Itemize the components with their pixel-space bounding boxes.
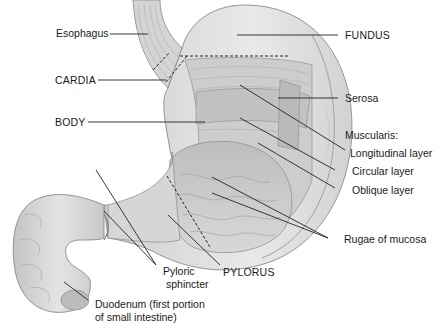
label-pyloric: Pyloric (163, 265, 195, 277)
label-duodenum-line1: Duodenum (first portion (95, 298, 205, 310)
label-longitudinal-layer: Longitudinal layer (350, 147, 432, 159)
label-sphincter: sphincter (166, 278, 209, 290)
label-cardia: CARDIA (55, 74, 96, 86)
label-esophagus: Esophagus (56, 27, 109, 39)
label-rugae-of-mucosa: Rugae of mucosa (344, 233, 426, 245)
label-body: BODY (55, 116, 86, 128)
stomach-diagram: Esophagus CARDIA BODY FUNDUS Serosa Musc… (0, 0, 440, 331)
label-fundus: FUNDUS (345, 29, 390, 41)
duodenum-shape (13, 195, 104, 313)
label-serosa: Serosa (345, 92, 378, 104)
label-circular-layer: Circular layer (352, 165, 414, 177)
label-muscularis: Muscularis: (345, 129, 398, 141)
label-pylorus: PYLORUS (223, 266, 275, 278)
label-oblique-layer: Oblique layer (352, 184, 414, 196)
duodenum-opening (61, 290, 89, 310)
label-duodenum-line2: of small intestine) (95, 311, 177, 323)
